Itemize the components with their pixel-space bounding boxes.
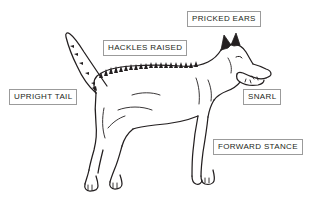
callout-pricked-ears[interactable]: PRICKED EARS [187, 11, 261, 27]
tail-outline [66, 33, 107, 93]
ear-near [231, 33, 240, 46]
callout-forward-stance[interactable]: FORWARD STANCE [213, 139, 303, 155]
hind-paw-far-toes [88, 185, 92, 190]
haunch-contour [103, 108, 105, 138]
throat-outline [214, 82, 240, 100]
hind-rear-outline [89, 93, 96, 170]
diagram-canvas: PRICKED EARS HACKLES RAISED UPRIGHT TAIL… [0, 0, 314, 207]
shoulder-contour-2 [208, 80, 211, 101]
dog-body-outline [66, 33, 271, 191]
hind-leg-far-outline [98, 150, 103, 173]
back-outline [94, 50, 221, 93]
front-leg-near-outline [201, 117, 208, 176]
callout-snarl[interactable]: SNARL [243, 89, 281, 105]
belly-outline [133, 116, 198, 129]
front-paw-near-outline [201, 170, 214, 184]
shoulder-contour [196, 78, 199, 104]
flank-contour-2 [108, 116, 125, 128]
hind-paw-near-toes [113, 183, 117, 188]
chest-outline [208, 100, 214, 117]
hind-thigh-outline [122, 129, 133, 146]
pricked-ears [221, 33, 240, 50]
callout-hackles-raised[interactable]: HACKLES RAISED [103, 40, 187, 56]
flank-contour [118, 107, 152, 110]
ear-far [221, 35, 231, 50]
front-leg-far-outline [192, 116, 198, 176]
front-paw-near-toes [205, 178, 209, 183]
rib-contour [132, 93, 160, 95]
hock-outline [85, 170, 89, 184]
eye-outline [236, 56, 242, 58]
muzzle-top-outline [253, 64, 271, 78]
hackles-raised-fur [99, 61, 198, 78]
cheek-contour [228, 58, 231, 73]
callout-upright-tail[interactable]: UPRIGHT TAIL [9, 89, 77, 105]
